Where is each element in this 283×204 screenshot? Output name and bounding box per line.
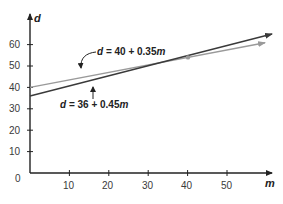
- y-tick-label: 60: [9, 39, 21, 50]
- equation-label-gray: d = 40 + 0.35m: [97, 46, 166, 57]
- y-tick-label: 50: [9, 60, 21, 71]
- axes: [30, 14, 272, 173]
- x-tick-labels: 10 20 30 40 50: [63, 180, 233, 191]
- line-chart: 10 20 30 40 50 60 0 10 20 30 40 50 d m d…: [0, 0, 283, 204]
- x-axis-label: m: [265, 177, 275, 189]
- x-tick-label: 50: [221, 180, 233, 191]
- y-tick-label: 40: [9, 82, 21, 93]
- y-tick-label: 10: [9, 146, 21, 157]
- y-tick-labels: 10 20 30 40 50 60 0: [9, 39, 21, 184]
- series-line-dark: [30, 34, 272, 96]
- equation-label-dark: d = 36 + 0.45m: [60, 99, 129, 110]
- x-tick-label: 10: [63, 180, 75, 191]
- x-tick-label: 30: [142, 180, 154, 191]
- y-tick-label: 30: [9, 103, 21, 114]
- curved-arrow-icon: [81, 52, 96, 68]
- intersection-point: [186, 55, 190, 59]
- y-axis-label: d: [34, 12, 41, 24]
- x-tick-label: 40: [181, 180, 193, 191]
- origin-label: 0: [15, 173, 21, 184]
- x-tick-label: 20: [102, 180, 114, 191]
- y-tick-label: 20: [9, 125, 21, 136]
